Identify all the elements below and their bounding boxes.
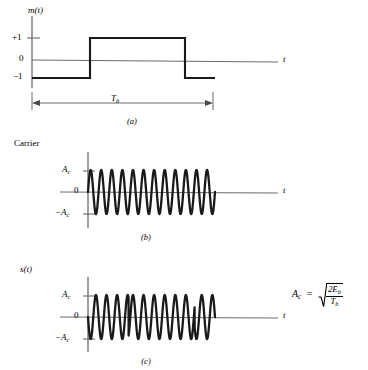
panel-b-ticklabel-neg-ac: −Ac bbox=[55, 208, 69, 218]
panel-a-duration-label: Tb bbox=[111, 94, 119, 104]
panel-c-ticklabel-zero: 0 bbox=[74, 311, 79, 320]
panel-b-caption: (b) bbox=[126, 233, 166, 242]
panel-b-ticklabel-ac: Ac bbox=[62, 165, 70, 175]
panel-b-group bbox=[60, 152, 278, 228]
panel-c-signal-label: s(t) bbox=[20, 265, 32, 274]
figure-canvas bbox=[0, 0, 368, 370]
panel-a-ticklabel-plus-one: +1 bbox=[12, 33, 22, 42]
panel-a-tb-arrow-right bbox=[205, 100, 213, 106]
message-signal-waveform bbox=[32, 38, 215, 78]
panel-c-group bbox=[60, 277, 278, 352]
panel-c-axis-label-t: t bbox=[283, 311, 286, 320]
panel-c-ticklabel-ac: Ac bbox=[62, 290, 70, 300]
bpsk-waveform-figure: m(t) +1 0 −1 t Tb (a) Carrier Ac 0 −Ac t… bbox=[0, 0, 368, 370]
amplitude-formula: Ac = 2Eb Tb bbox=[292, 282, 343, 308]
panel-a-t-axis bbox=[32, 60, 278, 62]
panel-a-caption: (a) bbox=[112, 117, 152, 126]
panel-a-ticklabel-zero: 0 bbox=[19, 54, 24, 63]
panel-a-ticklabel-minus-one: −1 bbox=[13, 72, 23, 81]
panel-a-axis-label-t: t bbox=[283, 55, 286, 64]
panel-c-caption: (c) bbox=[126, 357, 166, 366]
panel-c-ticklabel-neg-ac: −Ac bbox=[55, 333, 69, 343]
formula-equals: = bbox=[307, 288, 313, 299]
panel-b-ticklabel-zero: 0 bbox=[74, 186, 79, 195]
panel-a-tb-arrow-left bbox=[32, 100, 40, 106]
formula-radical: 2Eb Tb bbox=[318, 282, 343, 308]
panel-b-axis-label-t: t bbox=[283, 186, 286, 195]
panel-a-signal-label: m(t) bbox=[28, 6, 43, 15]
panel-a-group bbox=[27, 16, 278, 110]
panel-b-title: Carrier bbox=[14, 139, 39, 148]
